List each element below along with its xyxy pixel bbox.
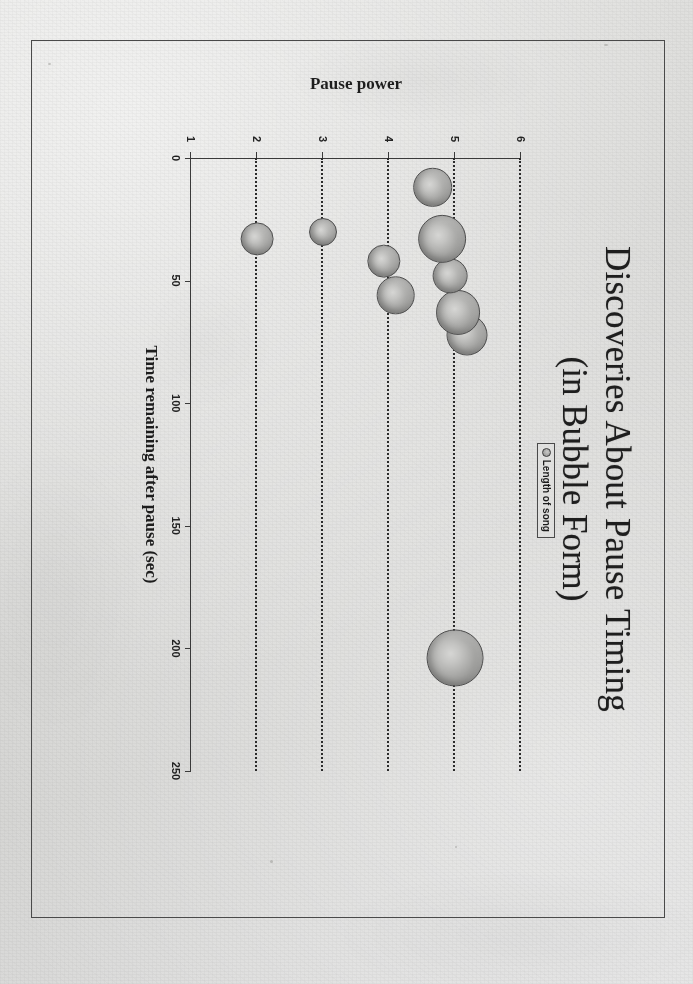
page-title: Discoveries About Pause Timing xyxy=(596,40,639,918)
x-axis-line xyxy=(190,158,191,771)
y-axis-tick xyxy=(190,152,191,158)
chart-legend[interactable]: Length of song xyxy=(537,443,555,538)
y-axis-tick-label: 1 xyxy=(185,136,197,142)
bubble-marker[interactable] xyxy=(367,245,400,278)
category-gridline xyxy=(519,158,521,771)
y-axis-line xyxy=(191,158,521,159)
y-axis-tick-label: 4 xyxy=(383,136,395,142)
y-axis-tick-label: 2 xyxy=(251,136,263,142)
y-axis-tick xyxy=(454,152,455,158)
y-axis-title: Pause power xyxy=(310,74,402,94)
y-axis-tick xyxy=(322,152,323,158)
bubble-marker[interactable] xyxy=(413,168,451,206)
x-axis-tick-label: 50 xyxy=(170,274,182,286)
plot-area: 050100150200250654321 xyxy=(191,158,521,771)
bubble-marker[interactable] xyxy=(309,218,337,246)
x-axis-tick-label: 0 xyxy=(170,155,182,161)
y-axis-tick xyxy=(520,152,521,158)
y-axis-tick xyxy=(256,152,257,158)
x-axis-tick xyxy=(185,771,191,772)
x-axis-tick xyxy=(185,526,191,527)
page-subtitle: (in Bubble Form) xyxy=(553,40,596,918)
bubble-marker[interactable] xyxy=(240,222,273,255)
y-axis-tick-label: 6 xyxy=(515,136,527,142)
bubble-chart: Discoveries About Pause Timing (in Bubbl… xyxy=(31,40,665,918)
bubble-marker[interactable] xyxy=(377,277,414,314)
bubble-marker[interactable] xyxy=(426,630,483,687)
x-axis-tick-label: 250 xyxy=(170,762,182,780)
x-axis-tick xyxy=(185,158,191,159)
chart-title-block: Discoveries About Pause Timing (in Bubbl… xyxy=(553,40,639,918)
bubble-marker[interactable] xyxy=(418,215,466,263)
x-axis-tick-label: 100 xyxy=(170,394,182,412)
x-axis-tick xyxy=(185,281,191,282)
legend-label: Length of song xyxy=(541,460,552,532)
y-axis-tick-label: 5 xyxy=(449,136,461,142)
y-axis-tick xyxy=(388,152,389,158)
bubble-marker[interactable] xyxy=(436,290,480,334)
rotated-slide-canvas: Discoveries About Pause Timing (in Bubbl… xyxy=(31,40,665,918)
x-axis-tick xyxy=(185,648,191,649)
x-axis-title: Time remaining after pause (sec) xyxy=(141,346,161,584)
x-axis-tick-label: 150 xyxy=(170,517,182,535)
y-axis-tick-label: 3 xyxy=(317,136,329,142)
circle-marker-icon xyxy=(542,448,551,457)
x-axis-tick-label: 200 xyxy=(170,639,182,657)
x-axis-tick xyxy=(185,403,191,404)
category-gridline xyxy=(321,158,323,771)
bubble-marker[interactable] xyxy=(433,258,468,293)
